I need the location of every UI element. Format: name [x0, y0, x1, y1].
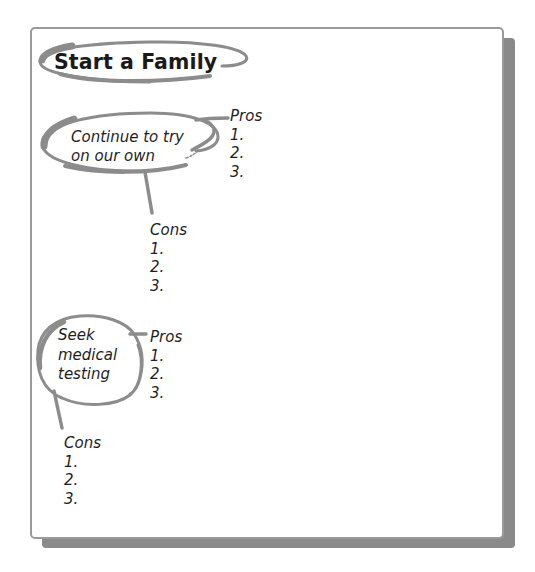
- option2-cons-list: Cons 1. 2. 3.: [64, 434, 101, 508]
- option1-pros-connector: [196, 118, 228, 120]
- diagram-title: Start a Family: [54, 50, 217, 74]
- option2-cons-item: 2.: [64, 471, 101, 490]
- option1-cons-heading: Cons: [150, 221, 187, 240]
- option1-pros-item: 3.: [230, 163, 262, 182]
- option1-pros-item: 1.: [230, 126, 262, 145]
- option2-label-line3: testing: [58, 365, 117, 385]
- option1-label: Continue to try on our own: [71, 128, 184, 166]
- option2-pros-item: 2.: [150, 365, 182, 384]
- option1-label-line2: on our own: [71, 147, 184, 166]
- option2-pros-list: Pros 1. 2. 3.: [150, 328, 182, 402]
- option1-pros-list: Pros 1. 2. 3.: [230, 107, 262, 181]
- option1-cons-list: Cons 1. 2. 3.: [150, 221, 187, 295]
- option2-label-line2: medical: [58, 346, 117, 366]
- option1-cons-connector: [145, 172, 152, 213]
- option1-cons-item: 3.: [150, 277, 187, 296]
- option2-pros-heading: Pros: [150, 328, 182, 347]
- option1-cons-item: 2.: [150, 258, 187, 277]
- option1-label-line1: Continue to try: [71, 128, 184, 147]
- option2-label-line1: Seek: [58, 326, 117, 346]
- option2-pros-item: 1.: [150, 347, 182, 366]
- option2-pros-item: 3.: [150, 384, 182, 403]
- option2-label: Seek medical testing: [58, 326, 117, 385]
- option2-cons-heading: Cons: [64, 434, 101, 453]
- option1-cons-item: 1.: [150, 240, 187, 259]
- option2-cons-item: 1.: [64, 453, 101, 472]
- option1-pros-heading: Pros: [230, 107, 262, 126]
- option1-pros-item: 2.: [230, 144, 262, 163]
- option2-cons-item: 3.: [64, 490, 101, 509]
